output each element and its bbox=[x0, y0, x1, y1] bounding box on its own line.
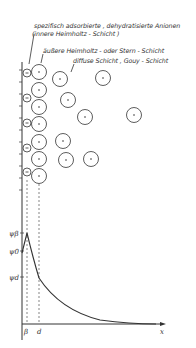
psi-0-label: ψ0 bbox=[9, 248, 19, 256]
x-beta-label: β bbox=[23, 328, 28, 336]
diffuse-layer-cations bbox=[53, 71, 142, 168]
double-layer-diagram: ψβ ψ0 ψd β d x bbox=[0, 0, 196, 348]
leader-line-inner bbox=[29, 34, 34, 64]
psi-beta-label: ψβ bbox=[9, 230, 19, 238]
adsorbed-anions bbox=[23, 69, 31, 176]
psi-d-label: ψd bbox=[9, 274, 19, 282]
leader-line-diffuse bbox=[71, 64, 74, 72]
x-axis-label: x bbox=[160, 328, 164, 336]
potential-curve bbox=[22, 233, 156, 324]
leader-line-outer bbox=[41, 54, 43, 63]
x-axis-arrow bbox=[160, 322, 166, 326]
x-d-label: d bbox=[37, 328, 42, 336]
